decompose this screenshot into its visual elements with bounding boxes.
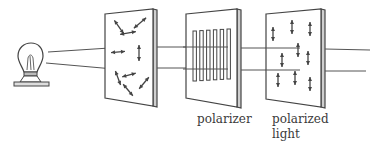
- polarizer-slot: [200, 31, 203, 81]
- polarizer-panel: [183, 9, 241, 108]
- polarized-light-label-line1: polarized: [272, 112, 329, 126]
- polarizer-slot: [220, 29, 223, 79]
- ray-upper-outgoing: [325, 49, 370, 50]
- diagram-canvas: polarizer polarized light: [0, 0, 380, 154]
- polarizer-slot: [193, 31, 196, 81]
- polarized-light-panel: [266, 9, 325, 108]
- polarizer-slot: [207, 30, 210, 80]
- polarizer-slot: [213, 30, 216, 80]
- light-bulb-icon: [14, 43, 49, 86]
- polarization-diagram: polarizer polarized light: [0, 0, 380, 154]
- polarizer-label: polarizer: [197, 112, 252, 126]
- unpolarized-light-panel: [105, 9, 157, 107]
- polarized-light-label-line2: light: [272, 127, 300, 141]
- polarizer-slot: [227, 29, 230, 79]
